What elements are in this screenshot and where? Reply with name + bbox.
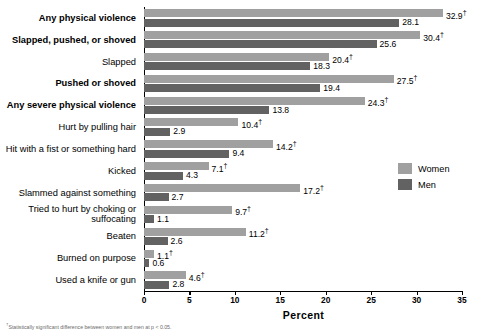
- x-axis-title: Percent: [144, 309, 463, 321]
- bar-value-men-2: 18.3: [313, 62, 330, 71]
- bar-men-3: [144, 84, 320, 92]
- bar-women-9: [144, 206, 232, 214]
- bar-value-men-12: 2.8: [172, 280, 184, 289]
- category-label-4: Any severe physical violence: [0, 100, 136, 110]
- bar-women-11: [144, 250, 154, 258]
- bar-value-women-1: 30.4†: [423, 31, 444, 42]
- bar-chart: Any physical violenceSlapped, pushed, or…: [0, 0, 488, 330]
- x-axis-line: [144, 291, 463, 292]
- bar-value-men-11: 0.6: [152, 259, 164, 268]
- bar-value-women-5: 10.4†: [241, 118, 262, 129]
- bar-women-4: [144, 97, 365, 105]
- category-label-12: Used a knife or gun: [0, 275, 136, 285]
- category-label-9: Tried to hurt by choking or suffocating: [0, 204, 136, 225]
- bar-women-2: [144, 53, 329, 61]
- bar-men-5: [144, 128, 170, 136]
- bar-women-8: [144, 184, 300, 192]
- bar-men-1: [144, 40, 377, 48]
- category-label-3: Pushed or shoved: [0, 78, 136, 88]
- x-tick-label-35: 35: [447, 296, 477, 305]
- bar-value-men-3: 19.4: [323, 84, 340, 93]
- category-label-2: Slapped: [0, 57, 136, 67]
- bar-women-0: [144, 9, 443, 17]
- category-label-5: Hurt by pulling hair: [0, 122, 136, 132]
- bar-men-4: [144, 106, 269, 114]
- category-label-1: Slapped, pushed, or shoved: [0, 35, 136, 45]
- legend-item-men: Men: [398, 179, 450, 190]
- category-label-10: Beaten: [0, 231, 136, 241]
- bar-men-0: [144, 19, 399, 27]
- bar-value-women-12: 4.6†: [189, 271, 205, 282]
- x-tick-label-30: 30: [402, 296, 432, 305]
- category-label-7: Kicked: [0, 166, 136, 176]
- bar-women-6: [144, 140, 273, 148]
- legend-label-men: Men: [418, 180, 436, 190]
- category-label-6: Hit with a fist or something hard: [0, 144, 136, 154]
- bar-value-women-8: 17.2†: [303, 184, 324, 195]
- bar-value-men-6: 9.4: [232, 149, 244, 158]
- bar-men-9: [144, 215, 154, 223]
- bar-value-women-2: 20.4†: [332, 53, 353, 64]
- bar-value-women-3: 27.5†: [397, 74, 418, 85]
- category-label-11: Burned on purpose: [0, 253, 136, 263]
- bar-women-7: [144, 162, 209, 170]
- bar-women-12: [144, 271, 186, 279]
- bar-men-2: [144, 62, 310, 70]
- bar-value-men-4: 13.8: [272, 106, 289, 115]
- legend-swatch-women-icon: [398, 163, 412, 174]
- category-label-0: Any physical violence: [0, 13, 136, 23]
- legend-item-women: Women: [398, 163, 450, 174]
- bar-value-men-7: 4.3: [186, 171, 198, 180]
- legend: Women Men: [398, 163, 450, 195]
- bar-value-women-4: 24.3†: [368, 96, 389, 107]
- x-tick-label-25: 25: [356, 296, 386, 305]
- legend-swatch-men-icon: [398, 179, 412, 190]
- bar-value-men-8: 2.7: [172, 193, 184, 202]
- legend-label-women: Women: [418, 164, 450, 174]
- x-tick-label-15: 15: [265, 296, 295, 305]
- bar-value-women-7: 7.1†: [212, 162, 228, 173]
- bar-value-men-1: 25.6: [380, 40, 397, 49]
- plot-area: 32.9†28.130.4†25.620.4†18.327.5†19.424.3…: [144, 7, 462, 291]
- bar-women-1: [144, 31, 420, 39]
- bar-value-women-10: 11.2†: [249, 227, 269, 238]
- bar-men-7: [144, 172, 183, 180]
- bar-women-3: [144, 75, 394, 83]
- bar-women-5: [144, 118, 238, 126]
- bar-value-women-9: 9.7†: [235, 205, 251, 216]
- bar-value-men-0: 28.1: [402, 18, 419, 27]
- bar-men-12: [144, 281, 169, 289]
- x-tick-label-0: 0: [129, 296, 159, 305]
- bar-value-women-0: 32.9†: [446, 9, 467, 20]
- bar-men-11: [144, 259, 149, 267]
- category-axis-labels: Any physical violenceSlapped, pushed, or…: [0, 7, 140, 291]
- bar-value-women-6: 14.2†: [276, 140, 297, 151]
- category-label-8: Slammed against something: [0, 188, 136, 198]
- footnote: †Statistically significant difference be…: [6, 322, 476, 330]
- x-tick-label-10: 10: [220, 296, 250, 305]
- bar-women-10: [144, 228, 246, 236]
- bar-men-8: [144, 193, 169, 201]
- bar-men-6: [144, 150, 229, 158]
- x-tick-label-5: 5: [174, 296, 204, 305]
- x-tick-label-20: 20: [311, 296, 341, 305]
- bar-men-10: [144, 237, 168, 245]
- bar-value-men-10: 2.6: [171, 237, 183, 246]
- bar-value-men-9: 1.1: [157, 215, 169, 224]
- bar-value-men-5: 2.9: [173, 127, 185, 136]
